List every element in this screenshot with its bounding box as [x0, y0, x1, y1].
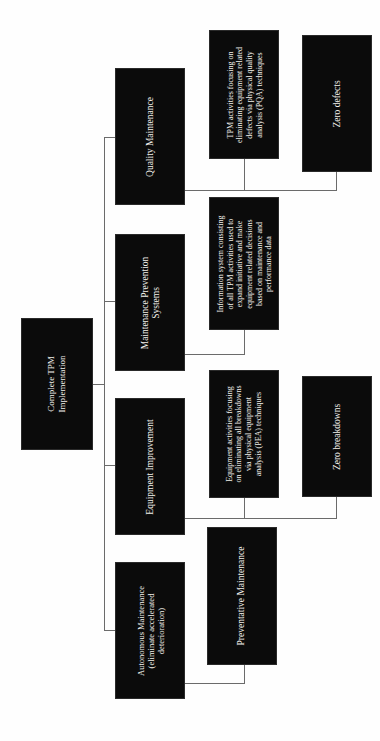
node-zero-breakdowns[interactable]: Zero breakdowns: [302, 376, 372, 497]
node-label: Equipment activities focusing on elimina…: [225, 372, 263, 496]
node-quality-maintenance-detail[interactable]: TPM activities focusing on eliminating e…: [209, 30, 279, 159]
node-label: Zero defects: [331, 38, 342, 169]
connector-zero-defects-drop: [336, 172, 337, 191]
connector-quality-detail-drop: [244, 159, 245, 191]
connector-autonomous-maintenance-branch: [185, 683, 245, 684]
connector-equipment-improvement-branch: [185, 518, 337, 519]
node-label: Equipment Improvement: [144, 401, 155, 532]
node-preventative-maintenance[interactable]: Preventative Maintenance: [207, 527, 277, 665]
connector-preventative-maintenance-drop: [244, 665, 245, 684]
node-label: Maintenance Prevention Systems: [139, 237, 162, 368]
node-equipment-improvement[interactable]: Equipment Improvement: [115, 398, 185, 535]
connector-zero-breakdowns-drop: [336, 497, 337, 519]
node-maintenance-prevention-systems[interactable]: Maintenance Prevention Systems: [115, 234, 185, 371]
node-maintenance-prevention-systems-detail[interactable]: Information system consisting of all TPM…: [209, 197, 279, 330]
node-label: Information system consisting of all TPM…: [215, 199, 273, 328]
node-autonomous-maintenance[interactable]: Autonomous Maintenance (eliminate accele…: [115, 562, 185, 699]
connector-equipment-detail-drop: [244, 498, 245, 519]
node-label: Zero breakdowns: [331, 378, 342, 495]
connector-maintenance-prevention-detail-drop: [244, 330, 245, 355]
node-label: Complete TPM Implementation: [46, 321, 68, 447]
connector-maintenance-prevention-branch: [185, 354, 245, 355]
node-quality-maintenance[interactable]: Quality Maintenance: [115, 68, 185, 205]
node-label: Preventative Maintenance: [236, 530, 247, 662]
node-complete-tpm-implementation[interactable]: Complete TPM Implementation: [21, 318, 93, 450]
connector-quality-maintenance-branch: [185, 190, 337, 191]
diagram-canvas: Complete TPM Implementation Quality Main…: [0, 0, 380, 741]
node-zero-defects[interactable]: Zero defects: [302, 35, 372, 172]
node-label: TPM activities focusing on eliminating e…: [225, 32, 263, 157]
connector-trunk: [104, 137, 105, 631]
node-equipment-improvement-detail[interactable]: Equipment activities focusing on elimina…: [209, 370, 279, 498]
node-label: Autonomous Maintenance (eliminate accele…: [135, 564, 166, 697]
node-label: Quality Maintenance: [144, 71, 155, 202]
